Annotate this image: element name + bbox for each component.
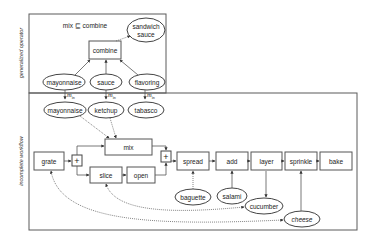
- cucumber-label: cucumber: [250, 203, 279, 210]
- edge-open-junction: [155, 163, 166, 175]
- sprinkle-label: sprinkle: [290, 158, 313, 166]
- combine-label: combine: [93, 47, 118, 54]
- spread-label: spread: [183, 158, 203, 166]
- sandwich-sauce-label-line1: sandwich: [132, 23, 159, 30]
- workflow-diagram: generalized operator incomplete workflow…: [0, 0, 376, 243]
- bake-label: bake: [329, 158, 343, 165]
- input-tabasco-label: tabasco: [135, 107, 158, 114]
- slice-label: slice: [99, 172, 112, 179]
- open-label: open: [134, 172, 149, 180]
- grate-label: grate: [42, 158, 57, 166]
- edge-junction-slice: [77, 166, 89, 175]
- cheese-label: cheese: [292, 216, 313, 223]
- edge-flavoring-combine: [120, 60, 138, 75]
- generalized-operator-label: generalized operator: [18, 27, 24, 79]
- mapping-flavoring: min: [145, 90, 155, 100]
- svg-text:min: min: [67, 91, 75, 100]
- input-mayonnaise-label: mayonnaise: [47, 107, 82, 115]
- gen-input-flavoring-label: flavoring: [135, 79, 160, 87]
- split-junction-symbol: +: [74, 156, 79, 166]
- add-label: add: [227, 158, 238, 165]
- incomplete-workflow-label: incomplete workflow: [18, 135, 24, 186]
- edge-mayonnaise-mix: [80, 116, 109, 138]
- combine-to-output-edge: [116, 36, 130, 41]
- layer-label: layer: [259, 158, 274, 166]
- mapping-sauce: min: [106, 90, 116, 100]
- edge-mix-junction: [152, 146, 166, 150]
- salami-label: salami: [223, 193, 242, 200]
- svg-text:min: min: [108, 91, 116, 100]
- baguette-label: baguette: [180, 194, 206, 202]
- gen-input-sauce-label: sauce: [97, 79, 115, 86]
- svg-text:min: min: [147, 91, 155, 100]
- edge-mayonnaise-combine: [75, 60, 90, 75]
- edge-ketchup-mix: [110, 118, 116, 138]
- sandwich-sauce-label-line2: sauce: [137, 31, 155, 38]
- dependency-cheese-grate: [51, 171, 283, 222]
- gen-input-mayonnaise-label: mayonnaise: [46, 79, 81, 87]
- mix-label: mix: [123, 144, 134, 151]
- join-junction-symbol: +: [163, 152, 168, 162]
- edge-junction-mix: [77, 146, 104, 155]
- mapping-mayonnaise: min: [65, 90, 75, 100]
- input-ketchup-label: ketchup: [95, 107, 118, 115]
- subsumption-annotation: mix ⊑ combine: [63, 22, 108, 29]
